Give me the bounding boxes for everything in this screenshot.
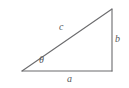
triangle-shape xyxy=(0,0,129,88)
horizontal-leg-label-a: a xyxy=(67,74,72,84)
hypotenuse-line-c xyxy=(22,9,112,71)
angle-label-theta: θ xyxy=(39,55,44,65)
triangle-diagram: c b a θ xyxy=(0,0,129,88)
vertical-leg-label-b: b xyxy=(115,34,120,44)
hypotenuse-label-c: c xyxy=(59,22,63,32)
